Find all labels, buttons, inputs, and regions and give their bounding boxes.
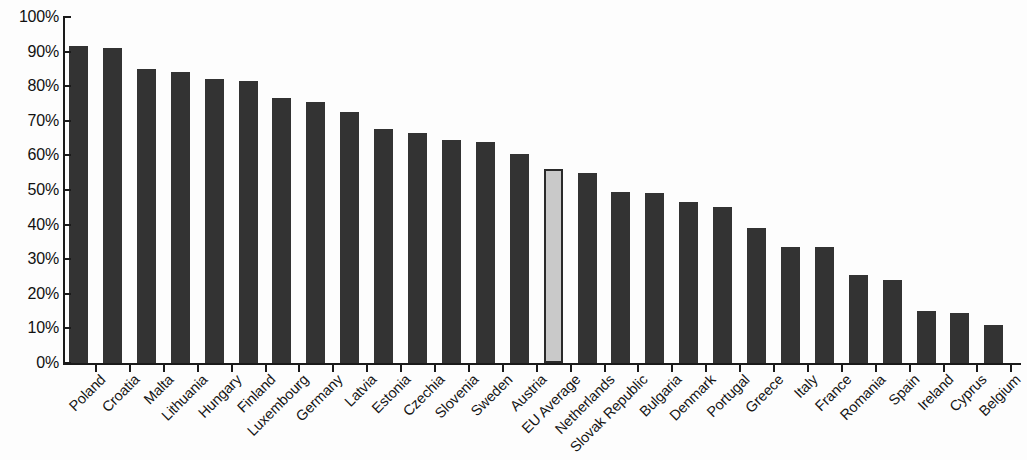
x-axis-tick (298, 365, 300, 372)
x-axis-tick (671, 365, 673, 372)
bar-bulgaria (645, 193, 664, 363)
bar-portugal (713, 207, 732, 363)
x-axis-tick (231, 365, 233, 372)
x-axis-tick (265, 365, 267, 372)
bar-greece (747, 228, 766, 363)
y-axis-tick-label: 10% (3, 320, 59, 336)
x-axis-tick (1010, 365, 1012, 372)
bar-slovenia (442, 140, 461, 363)
x-axis-tick (841, 365, 843, 372)
bar-finland (239, 81, 258, 363)
y-axis-tick-label: 100% (3, 9, 59, 25)
y-axis-tick-label: 40% (3, 217, 59, 233)
y-axis-tick (63, 51, 71, 53)
bar-estonia (374, 129, 393, 363)
bar-latvia (340, 112, 359, 363)
x-axis-tick (705, 365, 707, 372)
bar-belgium (984, 325, 1003, 363)
bar-eu-average (544, 169, 563, 363)
bar-czechia (408, 133, 427, 363)
y-axis-tick-label: 90% (3, 44, 59, 60)
x-axis-tick (943, 365, 945, 372)
bar-malta (137, 69, 156, 363)
y-axis-tick (63, 189, 71, 191)
y-axis-tick (63, 154, 71, 156)
x-axis-tick (502, 365, 504, 372)
y-axis-tick (63, 16, 71, 18)
x-axis-tick (536, 365, 538, 372)
x-axis-labels: PolandCroatiaMaltaLithuaniaHungaryFinlan… (63, 372, 1027, 460)
bars-layer (63, 17, 1021, 363)
bar-austria (510, 154, 529, 363)
x-axis-tick (976, 365, 978, 372)
bar-cyprus (950, 313, 969, 363)
bar-luxembourg (272, 98, 291, 363)
y-axis-tick (63, 293, 71, 295)
bar-chart: 100%90%80%70%60%50%40%30%20%10%0% Poland… (0, 0, 1027, 460)
x-axis-tick (570, 365, 572, 372)
x-axis-tick (163, 365, 165, 372)
y-axis-tick-label: 80% (3, 78, 59, 94)
bar-lithuania (171, 72, 190, 363)
bar-sweden (476, 142, 495, 363)
bar-ireland (917, 311, 936, 363)
bar-croatia (103, 48, 122, 363)
bar-netherlands (578, 173, 597, 363)
y-axis-tick-label: 60% (3, 147, 59, 163)
x-axis-tick (739, 365, 741, 372)
y-axis-tick-label: 30% (3, 251, 59, 267)
y-axis-tick-label: 20% (3, 286, 59, 302)
x-axis-category-label: Italy (791, 372, 820, 401)
y-axis-tick (63, 224, 71, 226)
x-axis-tick (807, 365, 809, 372)
x-axis-tick (909, 365, 911, 372)
x-axis-tick (366, 365, 368, 372)
y-axis-tick (63, 327, 71, 329)
x-axis-tick (637, 365, 639, 372)
x-axis-tick (197, 365, 199, 372)
x-axis-tick (332, 365, 334, 372)
bar-slovak-republic (611, 192, 630, 363)
y-axis-labels: 100%90%80%70%60%50%40%30%20%10%0% (0, 0, 59, 460)
bar-germany (306, 102, 325, 363)
x-axis-tick (468, 365, 470, 372)
bar-poland (69, 46, 88, 363)
y-axis-tick (63, 362, 71, 364)
y-axis-tick-label: 50% (3, 182, 59, 198)
y-axis-tick (63, 258, 71, 260)
x-axis-tick (773, 365, 775, 372)
bar-italy (781, 247, 800, 363)
y-axis-tick (63, 85, 71, 87)
x-axis-tick (875, 365, 877, 372)
x-axis-tick (95, 365, 97, 372)
y-axis-tick-label: 0% (3, 355, 59, 371)
y-axis-tick (63, 120, 71, 122)
x-axis-line (63, 363, 1021, 365)
bar-spain (883, 280, 902, 363)
y-axis-tick-label: 70% (3, 113, 59, 129)
x-axis-tick (129, 365, 131, 372)
x-axis-tick (434, 365, 436, 372)
bar-romania (849, 275, 868, 363)
x-axis-tick (604, 365, 606, 372)
bar-denmark (679, 202, 698, 363)
bar-france (815, 247, 834, 363)
bar-hungary (205, 79, 224, 363)
x-axis-tick (400, 365, 402, 372)
